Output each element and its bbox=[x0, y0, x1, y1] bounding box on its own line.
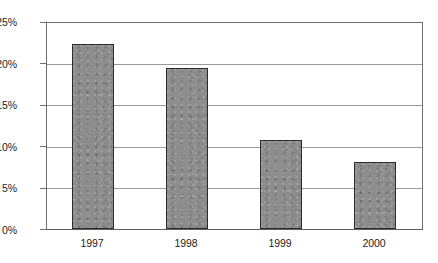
bar-1998 bbox=[166, 68, 208, 230]
y-axis-label-0: 0% bbox=[0, 225, 17, 236]
bars-layer bbox=[47, 23, 422, 229]
bar-chart: 25% 20% 15% 10% 5% 0% 1997 1998 1999 200… bbox=[0, 0, 438, 263]
bar-1999 bbox=[260, 140, 302, 229]
bar-1997 bbox=[72, 44, 114, 229]
x-axis-label-2000: 2000 bbox=[344, 238, 404, 249]
y-axis-label-10: 10% bbox=[0, 142, 17, 153]
y-axis-label-25: 25% bbox=[0, 17, 17, 28]
y-axis-label-20: 20% bbox=[0, 59, 17, 70]
x-axis-label-1997: 1997 bbox=[62, 238, 122, 249]
x-axis-label-1998: 1998 bbox=[156, 238, 216, 249]
plot-area bbox=[46, 22, 423, 230]
bar-2000 bbox=[354, 162, 396, 229]
x-axis-label-1999: 1999 bbox=[250, 238, 310, 249]
y-axis-label-5: 5% bbox=[0, 183, 17, 194]
y-axis-label-15: 15% bbox=[0, 100, 17, 111]
